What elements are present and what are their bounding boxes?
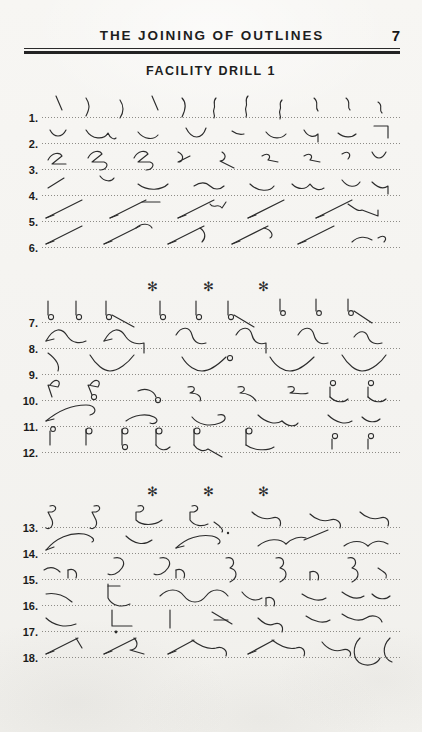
page-header: THE JOINING OF OUTLINES 7 bbox=[24, 26, 400, 52]
drill-line: 9. bbox=[0, 349, 422, 375]
asterisk-icon: ✻ bbox=[147, 485, 158, 498]
drill-line: 13. bbox=[0, 502, 422, 528]
shorthand-textbook-page: THE JOINING OF OUTLINES 7 FACILITY DRILL… bbox=[0, 0, 422, 732]
drill-block-3: 13. 14. bbox=[0, 502, 422, 658]
drill-line: 6. bbox=[0, 222, 422, 248]
shorthand-strokes bbox=[42, 630, 400, 670]
drill-line: 7. bbox=[0, 297, 422, 323]
drill-line: 4. bbox=[0, 170, 422, 196]
drill-line: 11. bbox=[0, 401, 422, 427]
shorthand-strokes bbox=[42, 425, 400, 465]
drill-subtitle: FACILITY DRILL 1 bbox=[0, 64, 422, 78]
drill-line: 14. bbox=[0, 528, 422, 554]
line-number: 6. bbox=[12, 242, 38, 254]
header-rule-thick bbox=[24, 51, 400, 54]
drill-line: 10. bbox=[0, 375, 422, 401]
page-number: 7 bbox=[392, 27, 400, 44]
drill-line: 1. bbox=[0, 92, 422, 118]
asterisk-icon: ✻ bbox=[258, 280, 269, 293]
asterisk-icon: ✻ bbox=[147, 280, 158, 293]
drill-line: 15. bbox=[0, 554, 422, 580]
asterisk-separator: ✻ ✻ ✻ bbox=[0, 280, 422, 294]
drill-line: 12. bbox=[0, 427, 422, 453]
drill-line: 2. bbox=[0, 118, 422, 144]
drill-line: 8. bbox=[0, 323, 422, 349]
drill-line: 16. bbox=[0, 580, 422, 606]
drill-block-1: 1. 2. bbox=[0, 92, 422, 248]
drill-line: 5. bbox=[0, 196, 422, 222]
asterisk-icon: ✻ bbox=[258, 485, 269, 498]
shorthand-strokes bbox=[42, 220, 400, 260]
drill-line: 18. bbox=[0, 632, 422, 658]
drill-block-2: 7. 8. bbox=[0, 297, 422, 453]
asterisk-separator: ✻ ✻ ✻ bbox=[0, 485, 422, 499]
asterisk-icon: ✻ bbox=[203, 485, 214, 498]
line-number: 18. bbox=[12, 652, 38, 664]
drill-line: 3. bbox=[0, 144, 422, 170]
header-rule-thin bbox=[24, 48, 400, 49]
drill-line: 17. bbox=[0, 606, 422, 632]
asterisk-icon: ✻ bbox=[203, 280, 214, 293]
header-title: THE JOINING OF OUTLINES bbox=[24, 28, 400, 43]
line-number: 12. bbox=[12, 447, 38, 459]
